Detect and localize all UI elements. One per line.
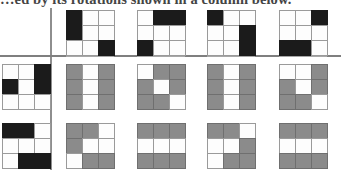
grid-cell — [137, 10, 154, 26]
key-grid-row2[interactable] — [2, 64, 50, 109]
body-grid-r2c1[interactable] — [66, 64, 114, 109]
grid-cell — [311, 79, 328, 95]
grid-cell — [311, 138, 328, 154]
grid-cell — [66, 153, 83, 169]
grid-cell — [137, 25, 154, 41]
key-grid-row3[interactable] — [2, 123, 50, 168]
grid-cell — [2, 64, 19, 80]
grid-cell — [153, 79, 170, 95]
grid-cell — [207, 123, 224, 139]
grid-cell — [2, 79, 19, 95]
grid-cell — [311, 40, 328, 56]
grid-cell — [239, 138, 256, 154]
grid-cell — [98, 79, 115, 95]
grid-cell — [223, 153, 240, 169]
grid-cell — [153, 94, 170, 110]
grid-cell — [169, 25, 186, 41]
top-grid-3[interactable] — [207, 10, 255, 55]
grid-cell — [169, 94, 186, 110]
grid-cell — [279, 64, 296, 80]
body-grid-r2c3[interactable] — [207, 64, 255, 109]
grid-cell — [295, 123, 312, 139]
grid-cell — [207, 94, 224, 110]
grid-cell — [66, 64, 83, 80]
grid-cell — [2, 138, 19, 154]
grid-cell — [207, 138, 224, 154]
grid-cell — [2, 153, 19, 169]
grid-cell — [239, 153, 256, 169]
grid-cell — [153, 10, 170, 26]
grid-cell — [34, 64, 51, 80]
grid-cell — [279, 123, 296, 139]
grid-cell — [18, 123, 35, 139]
grid-cell — [82, 25, 99, 41]
grid-cell — [207, 40, 224, 56]
grid-cell — [66, 138, 83, 154]
grid-cell — [153, 40, 170, 56]
grid-cell — [239, 79, 256, 95]
top-grid-1[interactable] — [66, 10, 114, 55]
grid-cell — [279, 25, 296, 41]
grid-cell — [295, 94, 312, 110]
top-grid-4[interactable] — [279, 10, 327, 55]
grid-cell — [279, 138, 296, 154]
grid-cell — [137, 79, 154, 95]
body-grid-r2c4[interactable] — [279, 64, 327, 109]
grid-cell — [82, 153, 99, 169]
grid-cell — [82, 79, 99, 95]
grid-cell — [295, 79, 312, 95]
grid-cell — [207, 79, 224, 95]
grid-cell — [34, 153, 51, 169]
grid-cell — [279, 10, 296, 26]
grid-cell — [98, 153, 115, 169]
grid-cell — [18, 64, 35, 80]
grid-cell — [295, 10, 312, 26]
grid-cell — [295, 138, 312, 154]
grid-cell — [169, 10, 186, 26]
grid-cell — [207, 25, 224, 41]
grid-cell — [223, 25, 240, 41]
top-grid-2[interactable] — [137, 10, 185, 55]
grid-cell — [82, 10, 99, 26]
grid-cell — [153, 138, 170, 154]
grid-cell — [239, 123, 256, 139]
body-grid-r3c3[interactable] — [207, 123, 255, 168]
grid-cell — [239, 25, 256, 41]
grid-cell — [153, 153, 170, 169]
grid-cell — [311, 10, 328, 26]
grid-cell — [223, 79, 240, 95]
grid-cell — [82, 138, 99, 154]
grid-cell — [311, 153, 328, 169]
grid-cell — [279, 94, 296, 110]
grid-cell — [279, 153, 296, 169]
grid-cell — [223, 10, 240, 26]
grid-cell — [207, 153, 224, 169]
grid-cell — [2, 94, 19, 110]
grid-cell — [34, 94, 51, 110]
grid-cell — [295, 40, 312, 56]
grid-cell — [34, 79, 51, 95]
grid-cell — [18, 94, 35, 110]
grid-cell — [169, 138, 186, 154]
grid-cell — [295, 25, 312, 41]
grid-cell — [98, 64, 115, 80]
grid-cell — [223, 40, 240, 56]
body-grid-r2c2[interactable] — [137, 64, 185, 109]
grid-cell — [98, 40, 115, 56]
grid-cell — [169, 40, 186, 56]
grid-cell — [66, 40, 83, 56]
grid-cell — [66, 79, 83, 95]
grid-cell — [98, 94, 115, 110]
grid-cell — [137, 64, 154, 80]
body-grid-r3c1[interactable] — [66, 123, 114, 168]
grid-cell — [239, 94, 256, 110]
grid-cell — [169, 79, 186, 95]
grid-cell — [137, 123, 154, 139]
body-grid-r3c2[interactable] — [137, 123, 185, 168]
grid-cell — [223, 94, 240, 110]
grid-cell — [98, 25, 115, 41]
body-grid-r3c4[interactable] — [279, 123, 327, 168]
grid-cell — [66, 94, 83, 110]
grid-cell — [66, 123, 83, 139]
grid-cell — [82, 64, 99, 80]
